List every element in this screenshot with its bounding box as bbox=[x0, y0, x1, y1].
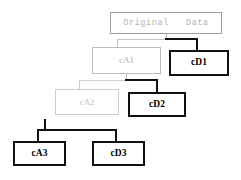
node-cd2[interactable]: cD2 bbox=[128, 92, 186, 117]
node-ca3-label: cA3 bbox=[32, 149, 48, 159]
edge-ca1-to-cd2-horizontal bbox=[125, 79, 158, 81]
edge-ca1-to-ca2-vertical bbox=[79, 80, 80, 89]
edge-ca1-to-ca2-horizontal bbox=[79, 80, 127, 81]
edge-root-to-ca1-horizontal bbox=[117, 39, 167, 40]
edge-ca2-to-ca3-vertical bbox=[37, 129, 39, 141]
node-ca1[interactable]: cA1 bbox=[92, 47, 161, 74]
node-cd1[interactable]: cD1 bbox=[169, 50, 229, 76]
node-ca2-label: cA2 bbox=[80, 98, 95, 107]
edge-ca1-to-cd2-vertical bbox=[156, 79, 158, 92]
edge-root-to-ca1-vertical bbox=[117, 39, 118, 47]
node-ca3[interactable]: cA3 bbox=[13, 141, 66, 166]
node-ca2[interactable]: cA2 bbox=[55, 89, 119, 115]
node-ca1-label: cA1 bbox=[119, 56, 134, 65]
node-original-data-label: Original Data bbox=[123, 19, 209, 28]
edge-ca2-to-cd3-vertical bbox=[115, 129, 117, 141]
decomposition-tree-diagram: Original Data cA1 cD1 cA2 cD2 cA3 cD3 bbox=[0, 0, 241, 180]
node-cd3-label: cD3 bbox=[111, 149, 127, 159]
edge-root-to-cd1-horizontal bbox=[165, 38, 198, 40]
node-cd2-label: cD2 bbox=[149, 100, 165, 110]
edge-root-to-cd1-vertical bbox=[196, 38, 198, 50]
node-cd1-label: cD1 bbox=[191, 58, 207, 68]
edge-ca2-split-horizontal bbox=[37, 129, 117, 131]
node-original-data[interactable]: Original Data bbox=[110, 12, 222, 34]
node-cd3[interactable]: cD3 bbox=[92, 141, 145, 166]
